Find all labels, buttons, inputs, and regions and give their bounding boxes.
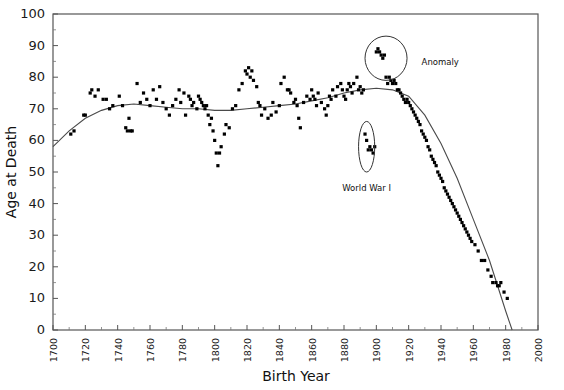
data-point	[446, 193, 449, 196]
data-point	[451, 202, 454, 205]
data-point	[289, 91, 292, 94]
data-point	[302, 101, 305, 104]
x-tick-label: 1740	[113, 338, 124, 362]
x-tick-label: 2000	[533, 338, 544, 362]
data-point	[234, 104, 237, 107]
data-point	[443, 186, 446, 189]
data-point	[494, 281, 497, 284]
annotation-ellipse	[359, 121, 375, 172]
data-point	[315, 104, 318, 107]
data-point	[407, 101, 410, 104]
data-point	[363, 132, 366, 135]
data-point	[439, 177, 442, 180]
data-point	[249, 76, 252, 79]
data-point	[178, 88, 181, 91]
data-point	[384, 76, 387, 79]
x-tick-label: 1820	[242, 338, 253, 362]
data-point	[90, 88, 93, 91]
data-point	[145, 98, 148, 101]
data-point	[102, 98, 105, 101]
x-tick-label: 1940	[436, 338, 447, 362]
data-point	[299, 126, 302, 129]
data-point	[216, 164, 219, 167]
data-point	[218, 151, 221, 154]
data-point	[414, 114, 417, 117]
data-point	[142, 91, 145, 94]
data-point	[464, 227, 467, 230]
data-point	[380, 53, 383, 56]
y-tick-label: 70	[28, 101, 45, 116]
data-point	[378, 50, 381, 53]
data-point	[241, 82, 244, 85]
data-point	[215, 151, 218, 154]
x-tick-label: 1760	[145, 338, 156, 362]
data-point	[220, 145, 223, 148]
y-axis-ticks-group: 0102030405060708090100	[20, 6, 58, 337]
y-axis-title: Age at Death	[3, 126, 19, 218]
data-point	[124, 126, 127, 129]
data-point	[182, 91, 185, 94]
data-point	[213, 139, 216, 142]
data-point	[237, 88, 240, 91]
data-point	[203, 107, 206, 110]
data-point	[197, 95, 200, 98]
x-tick-label: 1840	[274, 338, 285, 362]
data-point	[457, 215, 460, 218]
x-axis-title: Birth Year	[262, 368, 330, 384]
data-point	[483, 259, 486, 262]
data-point	[257, 101, 260, 104]
data-point	[422, 132, 425, 135]
data-point	[250, 69, 253, 72]
data-point	[155, 98, 158, 101]
data-point	[449, 199, 452, 202]
data-point	[498, 284, 501, 287]
data-point	[435, 164, 438, 167]
data-point	[499, 281, 502, 284]
data-point	[326, 104, 329, 107]
data-point	[292, 101, 295, 104]
data-point	[391, 82, 394, 85]
data-point	[121, 104, 124, 107]
data-point	[336, 85, 339, 88]
y-tick-label: 10	[28, 290, 45, 305]
data-point	[350, 91, 353, 94]
data-point	[200, 101, 203, 104]
data-points-group	[69, 47, 509, 300]
data-point	[459, 218, 462, 221]
data-point	[431, 158, 434, 161]
data-point	[210, 117, 213, 120]
data-point	[365, 139, 368, 142]
data-point	[278, 104, 281, 107]
data-point	[381, 57, 384, 60]
x-tick-label: 1980	[501, 338, 512, 362]
y-tick-label: 0	[37, 322, 45, 337]
x-tick-label: 1960	[468, 338, 479, 362]
data-point	[355, 76, 358, 79]
data-point	[357, 88, 360, 91]
data-point	[433, 161, 436, 164]
data-point	[297, 117, 300, 120]
data-point	[401, 95, 404, 98]
data-point	[126, 129, 129, 132]
data-point	[258, 104, 261, 107]
data-point	[447, 196, 450, 199]
data-point	[490, 275, 493, 278]
data-point	[245, 72, 248, 75]
data-point	[223, 132, 226, 135]
data-point	[105, 98, 108, 101]
data-point	[323, 107, 326, 110]
annotations-group: AnomalyWorld War I	[342, 36, 459, 193]
data-point	[339, 82, 342, 85]
data-point	[444, 189, 447, 192]
annotation-ellipse	[365, 36, 407, 80]
data-point	[207, 114, 210, 117]
data-point	[480, 259, 483, 262]
data-point	[394, 82, 397, 85]
data-point	[383, 53, 386, 56]
data-point	[255, 85, 258, 88]
data-point	[462, 224, 465, 227]
data-point	[397, 88, 400, 91]
annotation-label: World War I	[342, 183, 391, 193]
annotation-label: Anomaly	[422, 57, 459, 67]
y-tick-label: 100	[20, 6, 45, 21]
